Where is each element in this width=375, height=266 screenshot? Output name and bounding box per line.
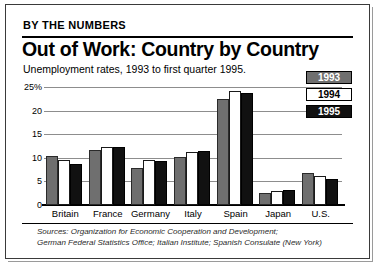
legend-item-1993: 1993 [306, 71, 352, 84]
x-axis-label-germany: Germany [129, 208, 172, 219]
chart-legend: 199319941995 [306, 71, 354, 122]
bar-us-1994 [314, 176, 326, 205]
x-axis-label-france: France [87, 208, 130, 219]
x-axis-label-italy: Italy [172, 208, 215, 219]
chart-plot-area: 25%20151050BritainFranceGermanyItalySpai… [6, 5, 369, 258]
legend-item-1995: 1995 [306, 105, 352, 118]
bar-japan-1995 [283, 190, 295, 205]
y-axis-tick-label: 5 [6, 176, 42, 186]
bar-britain-1995 [70, 164, 82, 205]
bar-germany-1993 [131, 168, 143, 205]
bar-france-1993 [89, 150, 101, 205]
bar-germany-1995 [155, 161, 167, 205]
bar-italy-1994 [186, 152, 198, 205]
bar-italy-1993 [174, 157, 186, 205]
bar-britain-1994 [58, 160, 70, 205]
gridline [44, 111, 342, 112]
figure-content: BY THE NUMBERS Out of Work: Country by C… [6, 5, 369, 258]
y-axis-tick-label: 25% [6, 82, 42, 92]
bar-spain-1995 [241, 93, 253, 205]
gridline [44, 134, 342, 135]
y-axis-tick-label: 0 [6, 200, 42, 210]
x-axis-label-japan: Japan [257, 208, 300, 219]
bar-germany-1994 [143, 160, 155, 205]
bar-france-1995 [113, 147, 125, 205]
legend-item-1994: 1994 [306, 88, 352, 101]
infographic-figure: BY THE NUMBERS Out of Work: Country by C… [0, 0, 375, 266]
bar-spain-1993 [217, 99, 229, 205]
sources-line-1: Sources: Organization for Economic Coope… [37, 227, 322, 238]
bar-france-1994 [101, 147, 113, 205]
x-axis-label-us: U.S. [299, 208, 342, 219]
y-axis-tick-label: 20 [6, 106, 42, 116]
y-axis-tick-label: 15 [6, 129, 42, 139]
sources-note: Sources: Organization for Economic Coope… [37, 227, 322, 248]
sources-divider [22, 223, 353, 224]
bar-italy-1995 [198, 151, 210, 205]
bar-japan-1993 [259, 193, 271, 205]
bar-japan-1994 [271, 191, 283, 205]
bar-britain-1993 [46, 156, 58, 205]
x-axis-label-britain: Britain [44, 208, 87, 219]
bar-us-1993 [302, 173, 314, 205]
x-axis-label-spain: Spain [214, 208, 257, 219]
bar-spain-1994 [229, 91, 241, 205]
bar-us-1995 [326, 179, 338, 205]
y-axis-tick-label: 10 [6, 153, 42, 163]
sources-line-2: German Federal Statistics Office; Italia… [37, 238, 322, 249]
gridline [44, 87, 342, 88]
